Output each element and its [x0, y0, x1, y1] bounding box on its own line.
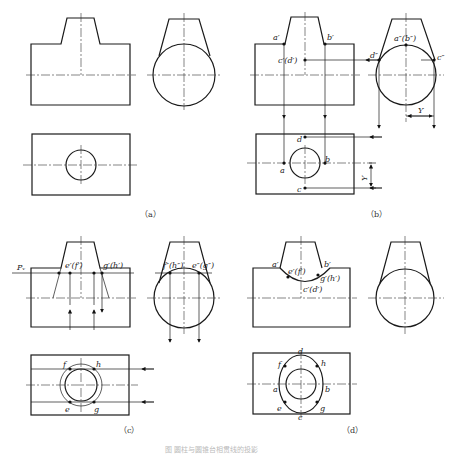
- projection-drawing: （a） a′ b′ c′(d′): [0, 0, 455, 457]
- front-view: Pᵥ e′(f′) g′(h′): [12, 236, 136, 330]
- label-a2-b2: a″(b″): [394, 34, 416, 43]
- label-f: f: [62, 360, 68, 369]
- label-d2: d″: [370, 51, 378, 60]
- side-view: [368, 236, 444, 334]
- label-g-prime-h-prime: g′(h′): [103, 261, 123, 270]
- top-view: d f h a b e g c: [247, 347, 357, 422]
- panel-a: （a）: [23, 13, 222, 219]
- label-e2-g2: e″(g″): [192, 261, 214, 270]
- label-a-prime: a′: [273, 33, 280, 42]
- label-f: f: [277, 360, 283, 369]
- side-view: f″(h″) e″(g″): [147, 236, 222, 342]
- front-view: [26, 13, 136, 105]
- front-view: a′ b′ e′(f′) g′(h′) c′(d′): [247, 236, 357, 327]
- label-b: b: [325, 155, 330, 164]
- label-e-prime-f-prime: e′(f′): [65, 261, 83, 270]
- label-g: g: [94, 405, 99, 414]
- label-a: a: [273, 385, 278, 394]
- label-f2-h2: f″(h″): [162, 261, 183, 270]
- figure-caption: 图 圆柱与圆锥台相贯线的投影: [165, 445, 258, 454]
- panel-d: a′ b′ e′(f′) g′(h′) c′(d′) d f h a: [247, 236, 444, 435]
- label-b-prime: b′: [327, 33, 334, 42]
- label-d: d: [297, 135, 302, 144]
- panel-c-label: （c）: [119, 426, 139, 435]
- label-d: d: [298, 347, 303, 356]
- panel-b: a′ b′ c′(d′) a″(b″) d″ c″ Y: [247, 12, 444, 219]
- label-c-prime-d-prime: c′(d′): [278, 56, 297, 65]
- label-b-prime: b′: [324, 260, 331, 269]
- side-view: [147, 13, 222, 110]
- panel-d-label: （d）: [342, 426, 363, 435]
- label-e: e: [277, 404, 282, 413]
- label-y-side: Y: [418, 106, 424, 115]
- label-c: c: [297, 185, 302, 194]
- label-c: c: [298, 413, 303, 422]
- label-y-top: Y: [360, 175, 369, 181]
- label-pv: Pᵥ: [16, 263, 25, 272]
- top-view: f h e g: [26, 355, 154, 415]
- front-view: a′ b′ c′(d′): [250, 12, 379, 165]
- label-h: h: [321, 359, 326, 368]
- label-e: e: [65, 405, 70, 414]
- label-g: g: [320, 404, 325, 413]
- panel-a-label: （a）: [140, 210, 161, 219]
- label-c2: c″: [437, 53, 444, 62]
- side-view: a″(b″) d″ c″ Y: [368, 13, 444, 128]
- label-b: b: [325, 385, 330, 394]
- label-g-prime-h-prime: g′(h′): [320, 274, 340, 283]
- panel-b-label: （b）: [366, 210, 387, 219]
- label-c-prime-d-prime: c′(d′): [303, 285, 322, 294]
- panel-c: Pᵥ e′(f′) g′(h′) f″(h″) e″(g″): [12, 236, 222, 435]
- label-e-prime-f-prime: e′(f′): [288, 267, 306, 276]
- top-view: d a b c Y: [247, 134, 382, 194]
- label-a-prime: a′: [272, 260, 279, 269]
- top-view: [23, 134, 139, 195]
- label-a: a: [280, 166, 285, 175]
- label-h: h: [96, 360, 101, 369]
